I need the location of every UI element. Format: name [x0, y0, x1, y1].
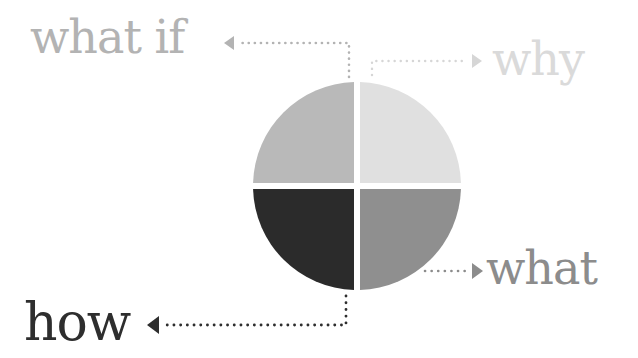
connector-what-if — [224, 36, 349, 77]
arrow-left-icon — [147, 316, 159, 334]
quadrant-circle — [253, 82, 461, 290]
label-what: what — [486, 245, 597, 291]
quadrant-why — [360, 82, 461, 183]
connector-why — [372, 54, 482, 75]
quadrant-what-if — [253, 82, 354, 183]
label-how: how — [24, 296, 130, 348]
label-why: why — [492, 36, 584, 82]
arrow-right-icon — [472, 263, 483, 279]
quadrant-how — [253, 189, 354, 290]
arrow-right-icon — [472, 54, 482, 68]
quadrant-what — [360, 189, 461, 290]
arrow-left-icon — [224, 36, 234, 50]
connector-what — [425, 263, 483, 279]
label-what-if: what if — [30, 14, 184, 60]
connector-how — [147, 296, 346, 334]
